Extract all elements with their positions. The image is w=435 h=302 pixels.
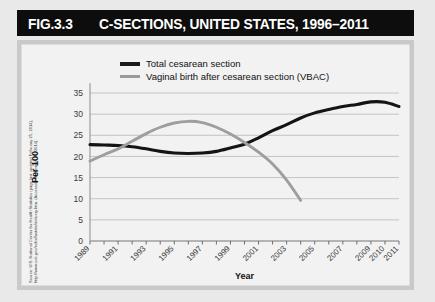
x-tick-label: 1997 bbox=[185, 244, 204, 263]
data-series bbox=[90, 102, 399, 201]
x-tick-label: 1995 bbox=[157, 244, 176, 263]
y-tick-label: 30 bbox=[74, 109, 84, 119]
y-tick-label: 10 bbox=[74, 194, 84, 204]
figure-container: FIG.3.3 C-SECTIONS, UNITED STATES, 1996–… bbox=[0, 0, 435, 302]
x-tick-label: 2011 bbox=[382, 244, 401, 263]
x-tick-label: 1999 bbox=[213, 244, 232, 263]
figure-number: FIG.3.3 bbox=[28, 15, 73, 32]
line-chart: 05101520253035 1989199119931995199719992… bbox=[22, 45, 411, 287]
x-tick-label: 1993 bbox=[129, 244, 148, 263]
figure-title-bar: FIG.3.3 C-SECTIONS, UNITED STATES, 1996–… bbox=[17, 10, 414, 36]
x-tick-label: 2003 bbox=[269, 244, 288, 263]
gridlines bbox=[90, 93, 399, 241]
chart-panel-inner: Source: U.S. National Center for Health … bbox=[21, 44, 410, 286]
x-tick-label: 2001 bbox=[241, 244, 260, 263]
series-line-total-cesarean bbox=[90, 102, 399, 154]
x-tick-label: 2005 bbox=[297, 244, 316, 263]
y-tick-label: 35 bbox=[74, 88, 84, 98]
x-axis: 1989199119931995199719992001200320052007… bbox=[72, 83, 400, 263]
x-tick-label: 1989 bbox=[72, 244, 91, 263]
y-axis-title: Per 100 bbox=[30, 151, 40, 183]
chart-panel: Source: U.S. National Center for Health … bbox=[17, 40, 414, 290]
x-tick-label: 1991 bbox=[101, 244, 120, 263]
y-axis-ticks: 05101520253035 bbox=[74, 88, 84, 246]
x-tick-label: 2007 bbox=[325, 244, 344, 263]
y-tick-label: 0 bbox=[78, 236, 83, 246]
x-axis-title: Year bbox=[235, 271, 255, 281]
y-tick-label: 20 bbox=[74, 152, 84, 162]
y-tick-label: 25 bbox=[74, 130, 84, 140]
y-tick-label: 5 bbox=[78, 215, 83, 225]
y-tick-label: 15 bbox=[74, 173, 84, 183]
figure-title: C-SECTIONS, UNITED STATES, 1996–2011 bbox=[99, 15, 369, 32]
